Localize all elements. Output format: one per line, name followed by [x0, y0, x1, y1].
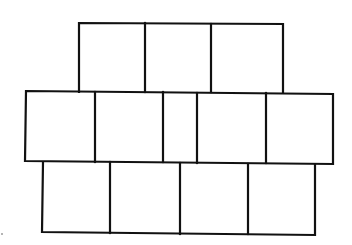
bottom-row — [42, 162, 315, 235]
bottom-row-outline — [42, 162, 315, 235]
top-row — [79, 23, 283, 93]
middle-row — [25, 91, 333, 164]
top-row-outline — [79, 23, 283, 93]
middle-row-outline — [25, 91, 333, 164]
stray-mark — [1, 233, 3, 235]
block-diagram — [0, 0, 352, 245]
